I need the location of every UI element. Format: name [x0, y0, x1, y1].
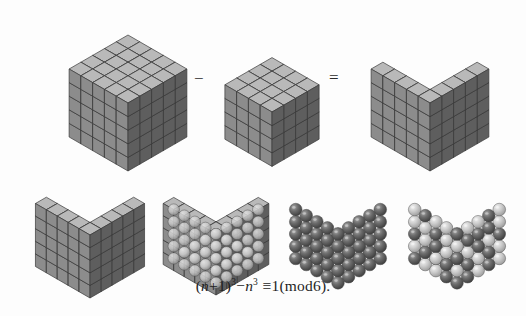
minus-operator: − [194, 70, 204, 87]
formula-var-n: n [201, 277, 209, 294]
caption-formula: (n+1)3−n3 ≡1(mod6). [0, 277, 526, 295]
formula-var-n2: n [245, 277, 253, 294]
formula-plus-one: +1 [209, 277, 226, 294]
formula-minus: − [236, 277, 245, 294]
formula-mod-text: mod6 [285, 277, 321, 294]
corner-shell-top [371, 62, 489, 171]
big-cube [69, 35, 187, 171]
formula-period: . [326, 277, 330, 294]
figure-canvas [0, 0, 526, 316]
figure-root: − = (n+1)3−n3 ≡1(mod6). [0, 0, 526, 316]
equals-operator: = [329, 69, 339, 86]
panel-group [35, 35, 505, 298]
small-cube [225, 58, 319, 167]
